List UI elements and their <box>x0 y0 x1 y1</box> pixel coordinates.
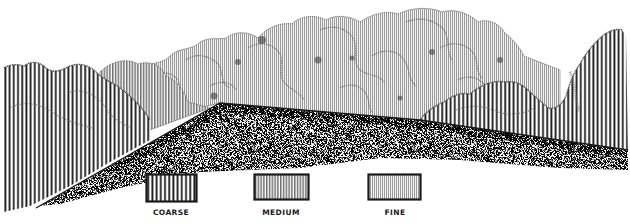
legend-swatch-fine <box>369 175 421 200</box>
legend-label-medium: MEDIUM <box>241 208 321 217</box>
foliage-texture-illustration <box>0 0 630 224</box>
texture-legend <box>147 175 421 202</box>
legend-label-coarse: COARSE <box>131 208 211 217</box>
legend-label-fine: FINE <box>355 208 435 217</box>
legend-swatch-coarse <box>147 175 197 202</box>
legend-swatch-medium <box>255 175 309 200</box>
